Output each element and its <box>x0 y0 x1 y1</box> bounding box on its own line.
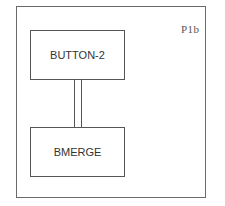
panel-label: P1b <box>181 23 200 35</box>
node-button-2: BUTTON-2 <box>30 30 125 80</box>
connector-double-line <box>74 80 82 127</box>
node-label: BUTTON-2 <box>50 49 105 61</box>
node-bmerge: BMERGE <box>30 127 125 177</box>
node-label: BMERGE <box>54 146 102 158</box>
